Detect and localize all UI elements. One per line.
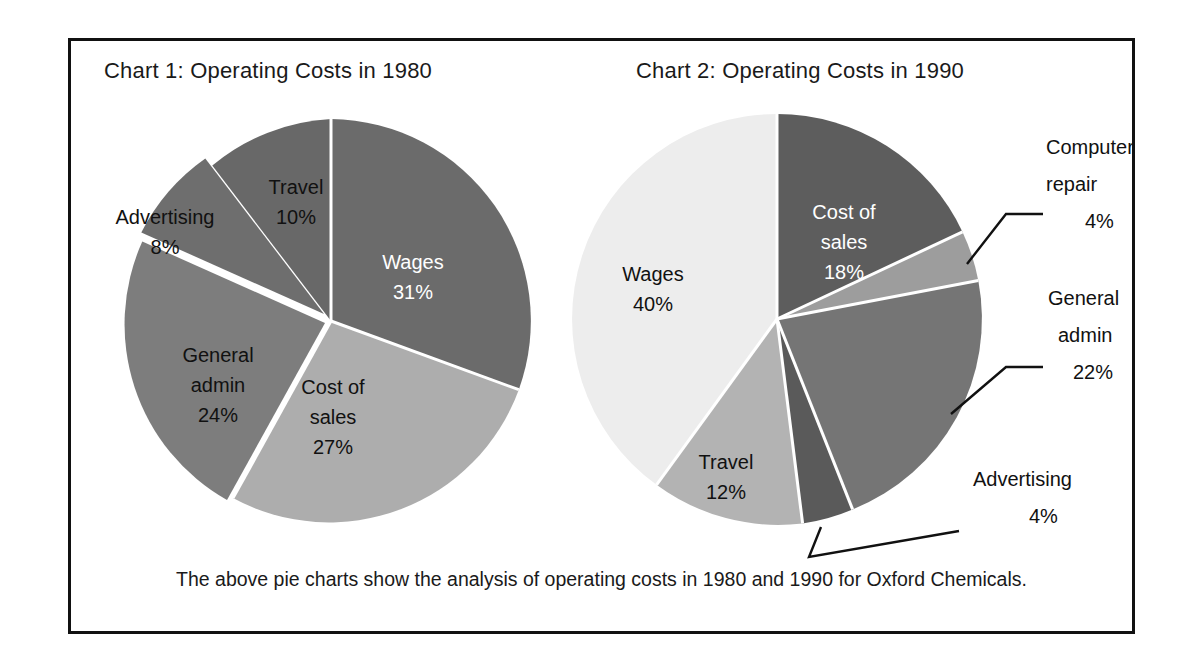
callout-advertising-pct: 4% (1029, 505, 1058, 527)
label-cost-of-sales-pct: 27% (313, 436, 353, 458)
label-advertising-name: Advertising (116, 206, 215, 228)
label-cost-of-sales-line1: Cost of (812, 201, 876, 223)
label-general-admin-pct: 24% (198, 404, 238, 426)
label-wages-pct: 40% (633, 293, 673, 315)
chart-2-callout-labels: Computer repair 4% General admin 22% Adv… (973, 136, 1134, 527)
callout-general-admin-line2: admin (1058, 324, 1112, 346)
label-cost-of-sales-line2: sales (310, 406, 357, 428)
callout-computer-repair-line1: Computer (1046, 136, 1134, 158)
label-travel-pct: 10% (276, 206, 316, 228)
leader-line-advertising (809, 527, 959, 557)
callout-general-admin-line1: General (1048, 287, 1119, 309)
label-cost-of-sales-line1: Cost of (301, 376, 365, 398)
figure-frame: Chart 1: Operating Costs in 1980 Chart 2… (68, 38, 1135, 634)
figure-page: Chart 1: Operating Costs in 1980 Chart 2… (0, 0, 1197, 671)
chart-1-title: Chart 1: Operating Costs in 1980 (104, 58, 432, 84)
label-cost-of-sales-pct: 18% (824, 261, 864, 283)
label-general-admin-line2: admin (191, 374, 245, 396)
callout-general-admin-pct: 22% (1073, 361, 1113, 383)
label-travel-pct: 12% (706, 481, 746, 503)
leader-line-computer-repair (967, 214, 1043, 264)
label-travel-name: Travel (269, 176, 324, 198)
label-advertising-pct: 8% (151, 236, 180, 258)
callout-computer-repair-pct: 4% (1085, 210, 1114, 232)
label-travel-name: Travel (699, 451, 754, 473)
figure-caption: The above pie charts show the analysis o… (71, 568, 1132, 591)
chart-2-pie: Cost of sales 18% Wages 40% Travel 12% C… (551, 79, 1131, 579)
callout-advertising-name: Advertising (973, 468, 1072, 490)
label-wages-name: Wages (382, 251, 444, 273)
label-cost-of-sales-line2: sales (821, 231, 868, 253)
callout-computer-repair-line2: repair (1046, 173, 1097, 195)
label-general-admin-line1: General (182, 344, 253, 366)
chart-1-pie: Wages 31% Cost of sales 27% General admi… (83, 89, 603, 559)
label-wages-pct: 31% (393, 281, 433, 303)
label-wages-name: Wages (622, 263, 684, 285)
